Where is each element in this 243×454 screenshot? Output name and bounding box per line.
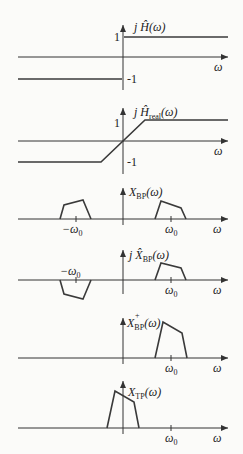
y-axis-label: XTP(ω) — [127, 385, 161, 401]
y-axis-label: XBP(ω) — [128, 185, 163, 201]
tick-pos: 1 — [114, 116, 120, 130]
panel-hilbert-transfer: j Ĥ(ω) 1 -1 ω — [18, 20, 228, 90]
x-axis-label: ω — [213, 361, 221, 375]
tick-right-label: ω0 — [165, 361, 177, 377]
x-axis-label: ω — [213, 283, 221, 297]
panel-lowpass-equivalent-spectrum: XTP(ω) ω0 ω — [18, 381, 228, 447]
panel-bandpass-spectrum: XBP(ω) −ω0 ω0 ω — [18, 185, 228, 238]
tick-left-label: −ω0 — [62, 222, 83, 238]
panel-analytic-bandpass-spectrum: XBP(ω) + ω0 ω — [18, 311, 228, 377]
tick-neg: -1 — [127, 72, 137, 86]
panel-hilbert-bandpass-spectrum: j X̂BP(ω) −ω0 ω0 ω — [18, 248, 228, 299]
tick-right-label: ω0 — [165, 431, 177, 447]
x-axis-label: ω — [213, 222, 221, 236]
y-axis-label: j Ĥreal(ω) — [132, 105, 177, 121]
y-axis-label-sup: + — [135, 311, 140, 320]
tick-right-label: ω0 — [165, 222, 177, 238]
panel-realizable-hilbert-transfer: j Ĥreal(ω) 1 -1 ω — [18, 105, 228, 174]
tick-neg: -1 — [127, 155, 137, 169]
x-axis-label: ω — [214, 60, 222, 74]
x-axis-label: ω — [213, 431, 221, 445]
spectrum-diagram: j Ĥ(ω) 1 -1 ω j Ĥreal(ω) 1 -1 ω XBP(ω) −… — [0, 0, 243, 454]
y-axis-label: j X̂BP(ω) — [127, 248, 169, 264]
tick-left-label: −ω0 — [60, 264, 81, 280]
y-axis-label: j Ĥ(ω) — [132, 20, 165, 34]
tick-pos: 1 — [114, 30, 120, 44]
y-axis-label: XBP(ω) — [126, 316, 161, 332]
x-axis-label: ω — [214, 144, 222, 158]
tick-right-label: ω0 — [165, 283, 177, 299]
